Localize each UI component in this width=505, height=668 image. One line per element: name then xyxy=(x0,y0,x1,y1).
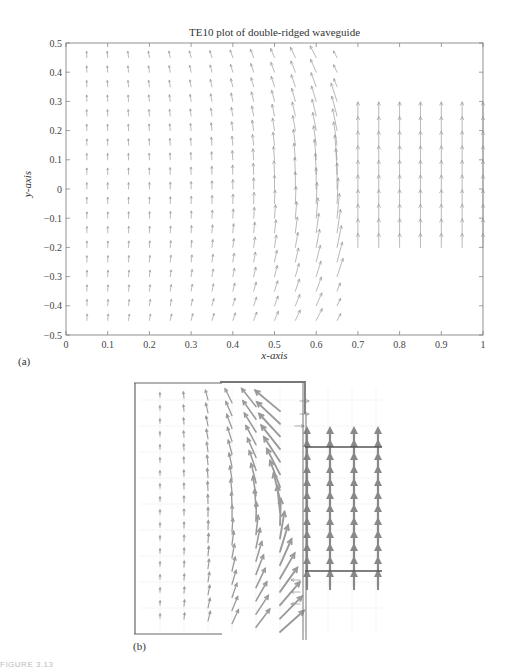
vector-field-b xyxy=(159,389,382,632)
figure-caption: FIGURE 3.13 xyxy=(0,660,54,668)
ridge-outline xyxy=(134,382,382,640)
quiver-plot-b xyxy=(0,0,505,668)
panel-b-label: (b) xyxy=(133,640,146,652)
